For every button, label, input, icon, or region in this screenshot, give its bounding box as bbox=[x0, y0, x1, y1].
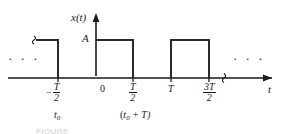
annotation-t0-plus-T: (t0 + T) bbox=[120, 110, 150, 122]
x-axis-arrowhead bbox=[263, 75, 272, 82]
amplitude-label: A bbox=[82, 33, 89, 44]
fraction-T-over-2: T2 bbox=[53, 82, 61, 103]
fraction-T-over-2: T2 bbox=[129, 82, 137, 103]
figure-caption: FIGURE bbox=[36, 128, 116, 134]
y-axis-arrowhead bbox=[93, 13, 100, 22]
minus-sign: − bbox=[46, 88, 53, 98]
right-ellipsis: · · · bbox=[233, 52, 265, 65]
tick-label-T: T bbox=[168, 84, 174, 94]
waveform-pulse-center bbox=[96, 40, 133, 78]
y-axis-label: x(t) bbox=[71, 12, 86, 23]
left-ellipsis: · · · bbox=[8, 52, 40, 65]
tick-label-half-T: T2 bbox=[129, 82, 137, 103]
x-axis-label: t bbox=[268, 84, 271, 95]
waveform-pulse-right bbox=[171, 40, 209, 78]
fraction-3T-over-2: 3T2 bbox=[203, 82, 216, 103]
tick-label-neg-half-T: −T2 bbox=[46, 82, 60, 103]
tick-label-three-half-T: 3T2 bbox=[203, 82, 216, 103]
annotation-t0: t0 bbox=[54, 110, 60, 122]
tick-label-origin: 0 bbox=[100, 84, 105, 94]
break-mark-left-pulse bbox=[32, 36, 35, 44]
